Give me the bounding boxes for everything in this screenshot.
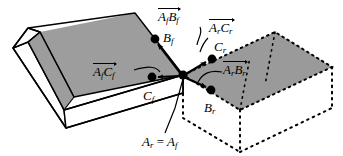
- label-vector-AfBf: AfBf: [158, 9, 179, 25]
- label-point-ArAf: Ar = Af: [142, 135, 177, 150]
- leader-AfBf: [197, 27, 201, 45]
- label-vector-ArBr: ArBr: [223, 62, 246, 78]
- reverse-frame-box: [183, 32, 332, 152]
- label-vector-AfCf: AfCf: [93, 64, 115, 80]
- leader-ArCr: [200, 38, 208, 52]
- label-ArBr-text: ArBr: [223, 62, 246, 77]
- vector-arrow-AfCf: [158, 76, 180, 77]
- label-point-Cf: Cf: [143, 89, 154, 104]
- label-point-Bf: Bf: [163, 31, 173, 46]
- dot-Cr: [208, 55, 217, 64]
- label-AfCf-text: AfCf: [93, 64, 115, 79]
- reverse-top-face: [183, 32, 332, 110]
- reverse-bottom-edge-right: [240, 108, 332, 152]
- reverse-bottom-edge-left: [183, 118, 240, 152]
- label-point-Br: Br: [204, 101, 215, 116]
- dot-Bf: [151, 35, 160, 44]
- dot-Cf: [148, 73, 157, 82]
- label-point-Cr: Cr: [214, 40, 226, 55]
- dot-A: [178, 70, 187, 79]
- label-ArCr-text: ArCr: [209, 20, 233, 35]
- dot-Br: [207, 86, 216, 95]
- figure-root: AfBf ArCr AfCf ArBr Bf Cr Cf Br Ar = Af: [0, 0, 343, 156]
- label-vector-ArCr: ArCr: [209, 20, 233, 36]
- label-AfBf-text: AfBf: [158, 9, 179, 24]
